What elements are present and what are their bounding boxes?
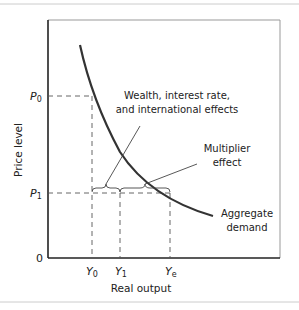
curve-label-line1: Aggregate: [221, 208, 273, 219]
multiplier-leader-line: [145, 164, 197, 184]
multiplier-effect-brace: [120, 184, 170, 192]
y-axis-title: Price level: [12, 123, 24, 177]
ye-label: Ye: [165, 265, 177, 279]
origin-label: 0: [36, 252, 43, 265]
multiplier-annotation-line1: Multiplier: [204, 143, 252, 154]
y0-label: Y0: [86, 265, 98, 279]
wealth-annotation-line1: Wealth, interest rate,: [124, 90, 230, 101]
wealth-effect-brace: [92, 184, 120, 192]
p0-label: P0: [30, 90, 42, 104]
p1-label: P1: [30, 187, 42, 201]
wealth-annotation-line2: and international effects: [116, 104, 239, 115]
curve-label-line2: demand: [226, 222, 267, 233]
y1-label: Y1: [115, 265, 127, 279]
x-axis-title: Real output: [111, 282, 172, 294]
aggregate-demand-diagram: P0 P1 0 Y0 Y1 Ye Real output Price level…: [0, 0, 299, 310]
multiplier-annotation-line2: effect: [213, 157, 242, 168]
dashed-guides: [48, 96, 170, 258]
aggregate-demand-curve: [80, 45, 213, 216]
